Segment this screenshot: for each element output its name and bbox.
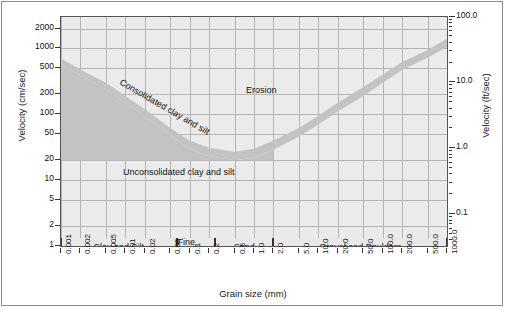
x-tick-mark [208,248,209,253]
y-tick-mark-right [449,16,455,17]
y-minor-tick-right [449,101,452,102]
y-tick-mark-left [55,28,60,29]
x-tick-mark [337,248,338,253]
y-tick-left-50: 50 [20,127,54,137]
y-minor-tick-right [449,84,452,85]
x-tick-0.5: 0.5 [238,243,247,254]
x-tick-100.0: 100.0 [386,234,395,254]
x-tick-mark [317,248,318,253]
x-tick-10.0: 10.0 [321,238,330,254]
x-tick-mark [189,248,190,253]
y-minor-tick-right [449,50,452,51]
x-tick-mark [253,248,254,253]
y-minor-tick-right [449,223,452,224]
category-cell-0: Clay and Silt [61,238,177,247]
y-minor-tick-right [449,96,452,97]
x-tick-mark [446,248,447,253]
y-minor-tick-right [449,35,452,36]
y-tick-mark-left [55,133,60,134]
x-tick-mark [105,248,106,253]
y-minor-tick-right [449,173,452,174]
x-tick-mark [124,248,125,253]
y-minor-tick-right [449,62,452,63]
y-minor-tick-right [449,216,452,217]
x-tick-5.0: 5.0 [302,243,311,254]
y-minor-tick-right [449,108,452,109]
y-minor-tick-right [449,42,452,43]
x-tick-0.1: 0.1 [193,243,202,254]
y-minor-tick-right [449,127,452,128]
y-tick-left-2: 2 [20,219,54,229]
y-minor-tick-right [449,193,452,194]
y-minor-tick-right [449,30,452,31]
y-minor-tick-right [449,81,452,82]
plot-area: Consolidated clay and silt Unconsolidate… [60,16,448,247]
x-tick-2.0: 2.0 [276,243,285,254]
y-tick-left-100: 100 [20,107,54,117]
y-tick-mark-left [55,225,60,226]
x-tick-0.05: 0.05 [173,238,182,254]
y-minor-tick-right [449,162,452,163]
x-tick-mark [79,248,80,253]
y-minor-tick-right [449,116,452,117]
plot-canvas [61,17,447,246]
y-tick-mark-left [55,113,60,114]
y-minor-tick-right [449,26,452,27]
y-minor-tick-right [449,167,452,168]
y-minor-tick-right [449,150,452,151]
x-tick-50.0: 50.0 [366,238,375,254]
x-axis-title: Grain size (mm) [0,288,506,299]
x-tick-mark [234,248,235,253]
y-tick-mark-left [55,159,60,160]
x-tick-mark [272,248,273,253]
y-tick-left-10: 10 [20,173,54,183]
x-tick-mark [169,248,170,253]
y-tick-left-2000: 2000 [20,22,54,32]
y-tick-mark-left [55,245,60,246]
x-tick-500.0: 500.0 [431,234,440,254]
x-tick-mark [382,248,383,253]
erosion-label: Erosion [246,85,277,95]
x-tick-mark [298,248,299,253]
y-minor-tick-right [449,157,452,158]
y-minor-tick-right [449,147,452,148]
x-tick-0.02: 0.02 [148,238,157,254]
y-tick-left-500: 500 [20,61,54,71]
x-tick-200.0: 200.0 [405,234,414,254]
y-minor-tick-right [449,213,452,214]
x-tick-mark [362,248,363,253]
x-tick-0.001: 0.001 [64,234,73,254]
y-tick-right-100.0: 100.0 [456,10,496,20]
x-tick-mark [60,248,61,253]
category-cell-3: Gravel and Boulders [273,238,447,247]
unconsolidated-label: Unconsolidated clay and silt [123,167,235,177]
y-tick-right-1.0: 1.0 [456,141,496,151]
y-minor-tick-right [449,154,452,155]
y-tick-left-1: 1 [20,239,54,249]
y-minor-tick-right [449,182,452,183]
y-tick-mark-left [55,67,60,68]
y-tick-mark-left [55,47,60,48]
y-tick-left-200: 200 [20,87,54,97]
x-tick-20.0: 20.0 [341,238,350,254]
y-tick-left-1000: 1000 [20,41,54,51]
y-minor-tick-right [449,220,452,221]
y-tick-mark-left [55,93,60,94]
x-tick-1000.0: 1000.0 [450,230,459,254]
x-tick-mark [144,248,145,253]
y-minor-tick-right [449,92,452,93]
y-tick-left-20: 20 [20,153,54,163]
y-tick-right-10.0: 10.0 [456,75,496,85]
x-tick-0.002: 0.002 [83,234,92,254]
y-minor-tick-right [449,88,452,89]
x-tick-mark [401,248,402,253]
x-tick-mark [427,248,428,253]
x-tick-0.2: 0.2 [212,243,221,254]
x-tick-0.01: 0.01 [128,238,137,254]
y-tick-left-5: 5 [20,193,54,203]
y-minor-tick-right [449,19,452,20]
y-tick-right-0.1: 0.1 [456,207,496,217]
x-tick-1.0: 1.0 [257,243,266,254]
y-minor-tick-right [449,22,452,23]
x-tick-0.005: 0.005 [109,234,118,254]
